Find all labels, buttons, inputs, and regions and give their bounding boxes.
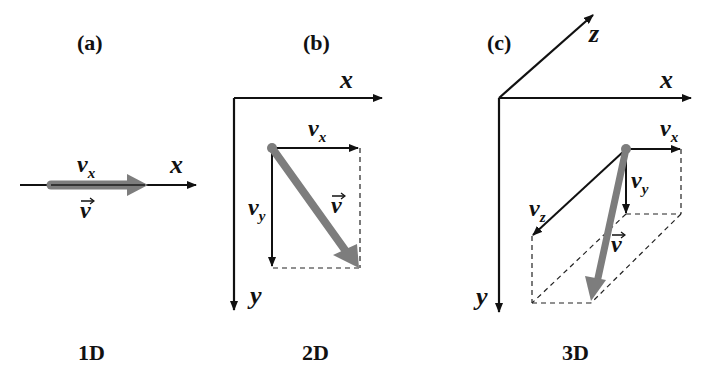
y-axis-label: y: [473, 282, 488, 311]
vector-v-label: v: [80, 197, 94, 223]
velocity-vector: [51, 174, 148, 196]
dimension-label-2d: 2D: [302, 340, 329, 365]
vx-label: vx: [77, 151, 96, 181]
z-axis-label: z: [588, 19, 600, 48]
velocity-vector: [267, 143, 359, 268]
vector-v-label: v: [331, 192, 345, 218]
panel-c-label: (c): [487, 30, 511, 55]
dimension-label-1d: 1D: [78, 340, 105, 365]
dimension-label-3d: 3D: [562, 340, 589, 365]
y-axis-label: y: [247, 281, 262, 310]
vector-components-diagram: (a) x vx v 1D (b) x y: [0, 0, 702, 372]
velocity-vector: [585, 144, 631, 301]
panel-b-2d: (b) x y vx vy v 2D: [234, 30, 382, 365]
vy-label: vy: [248, 194, 266, 224]
x-axis-label: x: [659, 65, 673, 94]
panel-a-1d: (a) x vx v 1D: [20, 30, 196, 365]
x-axis-label: x: [169, 150, 183, 179]
vx-label: vx: [660, 115, 679, 145]
vector-v-label: v: [611, 231, 625, 257]
panel-c-3d: (c) x y z vx vy: [473, 15, 691, 365]
z-axis-arrow: [499, 15, 593, 98]
x-axis-label: x: [339, 65, 353, 94]
vy-label: vy: [631, 167, 649, 197]
panel-b-label: (b): [303, 30, 330, 55]
panel-a-label: (a): [77, 30, 103, 55]
vz-label: vz: [529, 195, 546, 225]
vx-label: vx: [308, 115, 327, 145]
